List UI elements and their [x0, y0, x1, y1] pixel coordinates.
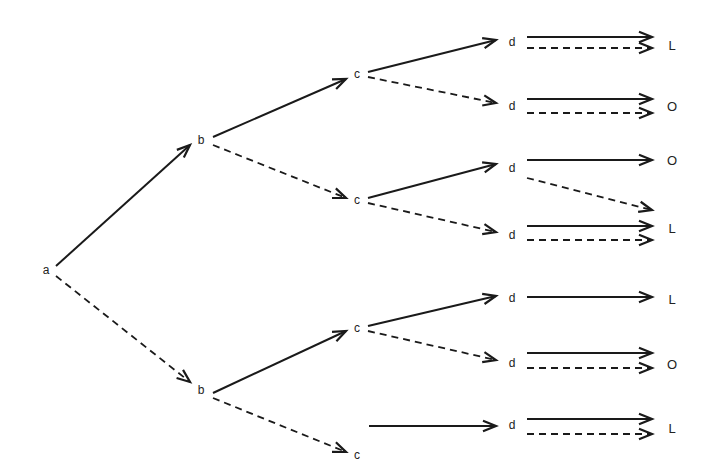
node-d1: d	[509, 36, 516, 48]
node-c2: c	[354, 194, 360, 206]
solid-edge	[368, 164, 496, 198]
node-d6: d	[509, 357, 516, 369]
outcome-o1: L	[668, 39, 675, 52]
node-d4: d	[509, 229, 516, 241]
dashed-edge	[213, 145, 346, 198]
arrowhead-icon	[482, 95, 496, 105]
solid-edge	[213, 331, 346, 393]
outcome-o6: O	[667, 358, 677, 371]
node-b2: b	[198, 384, 205, 396]
node-d2: d	[509, 100, 516, 112]
arrowhead-icon	[638, 202, 652, 212]
edges-group	[56, 32, 652, 452]
outcome-o4: L	[668, 222, 675, 235]
arrowhead-icon	[332, 442, 346, 452]
outcome-o7: L	[668, 422, 675, 435]
node-d7: d	[509, 419, 516, 431]
dashed-edge	[213, 398, 346, 452]
arrowhead-icon	[482, 224, 496, 234]
solid-edge	[213, 79, 346, 137]
outcome-o2: O	[667, 100, 677, 113]
node-a: a	[43, 264, 50, 276]
node-b1: b	[198, 134, 205, 146]
node-c3: c	[354, 322, 360, 334]
outcome-o3: O	[667, 154, 677, 167]
solid-edge	[368, 296, 496, 326]
outcome-o5: L	[668, 293, 675, 306]
arrowhead-icon	[482, 352, 496, 362]
arrowhead-icon	[332, 188, 346, 198]
node-c1: c	[354, 68, 360, 80]
dashed-edge	[368, 331, 496, 360]
dashed-edge	[527, 178, 652, 210]
solid-edge	[368, 40, 496, 72]
node-c4: c	[354, 449, 360, 461]
dashed-edge	[368, 77, 496, 103]
dashed-edge	[56, 276, 190, 382]
node-d5: d	[509, 292, 516, 304]
solid-edge	[56, 145, 190, 266]
node-d3: d	[509, 162, 516, 174]
dashed-edge	[368, 203, 496, 232]
